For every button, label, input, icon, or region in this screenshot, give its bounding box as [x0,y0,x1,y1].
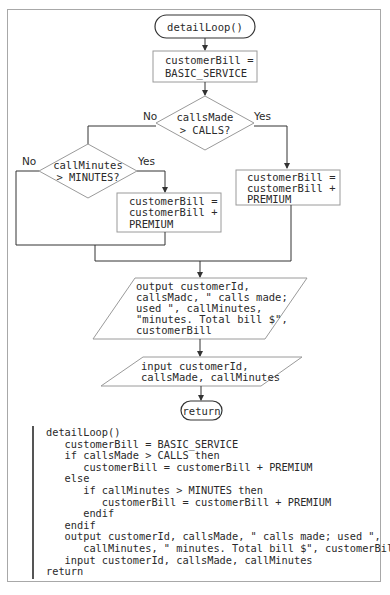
code-line: input customerId, callsMade, callMinutes [46,555,377,567]
decision-minutes: callMinutes > MINUTES? [39,144,137,198]
input-line-2: callsMade, callMinutes [141,371,280,383]
decision2-line-2: > MINUTES? [56,171,119,183]
output-io-box: output customerId, callsMadc, " calls ma… [93,278,307,339]
premium-box-minutes: customerBill = customerBill + PREMIUM [117,193,221,232]
code-line: customerBill = customerBill + PREMIUM [46,462,377,474]
init-process-box: customerBill = BASIC_SERVICE [153,51,257,82]
output-line-5: customerBill [136,324,212,336]
decision1-line-2: > CALLS? [180,124,231,136]
pseudocode-block: detailLoop() customerBill = BASIC_SERVIC… [32,426,377,579]
code-line: endif [46,508,377,520]
code-line: callMinutes, " minutes. Total bill $", c… [46,543,377,555]
decision1-yes-label: Yes [253,110,271,122]
return-label: return [183,405,221,417]
init-line-2: BASIC_SERVICE [165,67,247,80]
code-line: detailLoop() [46,427,377,439]
code-line: if callMinutes > MINUTES then [46,485,377,497]
yes2-line-3: PREMIUM [129,218,173,230]
decision-calls: callsMade > CALLS? [156,96,254,150]
decision2-line-1: callMinutes [53,159,123,171]
start-label: detailLoop() [167,21,243,33]
premium-box-calls: customerBill = customerBill + PREMIUM [236,170,340,205]
decision2-no-label: No [22,155,36,167]
code-line: return [46,566,377,578]
decision2-yes-label: Yes [137,155,155,167]
decision1-line-1: callsMade [177,111,234,123]
init-line-1: customerBill = [165,54,254,66]
decision1-no-label: No [143,110,157,122]
yes1-line-3: PREMIUM [247,193,291,205]
yes2-line-2: customerBill + [129,206,218,218]
flowchart: detailLoop() customerBill = BASIC_SERVIC… [0,0,390,425]
start-terminal: detailLoop() [155,15,255,38]
return-terminal: return [181,401,222,420]
input-io-box: input customerId, callsMade, callMinutes [101,357,302,386]
